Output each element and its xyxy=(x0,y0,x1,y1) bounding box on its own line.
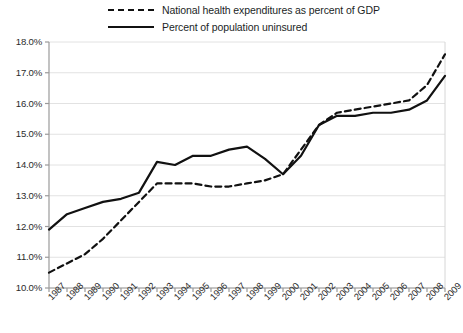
y-axis-label: 10.0% xyxy=(0,282,42,293)
series-line-health-expenditures xyxy=(49,54,445,272)
series-line-uninsured xyxy=(49,76,445,230)
y-axis-label: 14.0% xyxy=(0,159,42,170)
y-axis-label: 12.0% xyxy=(0,221,42,232)
y-axis-label: 13.0% xyxy=(0,190,42,201)
y-axis-label: 18.0% xyxy=(0,36,42,47)
y-axis-label: 11.0% xyxy=(0,251,42,262)
y-axis-label: 15.0% xyxy=(0,128,42,139)
y-axis-label: 17.0% xyxy=(0,67,42,78)
y-axis-label: 16.0% xyxy=(0,98,42,109)
